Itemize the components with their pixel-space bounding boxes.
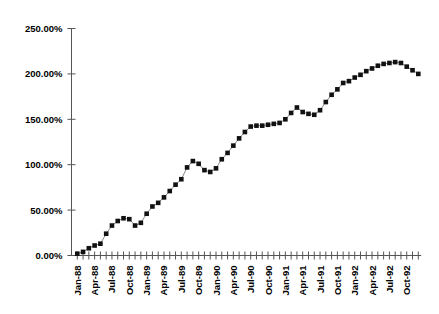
data-point [295, 105, 300, 110]
data-point [306, 112, 311, 117]
y-axis-labels: 0.00%50.00%100.00%150.00%200.00%250.00% [25, 23, 63, 261]
data-point [173, 182, 178, 187]
data-point [376, 63, 381, 68]
data-point [387, 61, 392, 66]
x-tick-label: Jul-88 [106, 266, 117, 293]
data-point [185, 165, 190, 170]
x-tick-label: Jul-92 [384, 266, 395, 293]
x-axis-labels: Jan-88Apr-88Jul-88Oct-88Jan-89Apr-89Jul-… [72, 265, 412, 296]
data-point [150, 204, 155, 209]
data-point [260, 123, 265, 128]
data-point [115, 219, 120, 224]
x-tick-label: Oct-91 [332, 265, 343, 295]
x-tick-label: Apr-89 [158, 266, 169, 296]
data-point [243, 130, 248, 135]
data-point [358, 73, 363, 78]
data-point [127, 217, 132, 222]
x-tick-label: Apr-91 [297, 265, 308, 296]
x-tick-label: Oct-89 [193, 266, 204, 296]
data-point [318, 108, 323, 113]
data-point [179, 177, 184, 182]
data-point [139, 221, 144, 226]
data-point [214, 166, 219, 171]
x-tick-label: Jan-92 [349, 266, 360, 296]
data-point [225, 151, 230, 156]
x-tick-label: Apr-92 [367, 266, 378, 296]
data-point [202, 168, 207, 173]
data-point [277, 121, 282, 126]
data-point [364, 69, 369, 74]
data-point [237, 136, 242, 141]
x-tick-label: Jan-89 [141, 266, 152, 296]
x-tick-label: Jan-91 [280, 265, 291, 296]
data-point [404, 64, 409, 69]
data-point [399, 61, 404, 66]
data-point [272, 122, 277, 127]
data-point [300, 110, 305, 115]
x-tick-label: Oct-90 [263, 266, 274, 296]
data-point [410, 68, 415, 73]
data-point [92, 243, 97, 248]
data-point [329, 92, 334, 97]
data-point [133, 223, 138, 228]
data-point [87, 246, 92, 251]
series-line [77, 62, 418, 254]
data-point [370, 66, 375, 71]
data-point [162, 195, 167, 200]
y-tick-label: 150.00% [25, 114, 63, 125]
data-point [283, 117, 288, 122]
data-point [393, 60, 398, 65]
x-tick-label: Apr-90 [228, 266, 239, 296]
data-point [208, 170, 213, 175]
x-tick-label: Apr-88 [89, 266, 100, 296]
data-point [144, 211, 149, 216]
data-point [219, 157, 224, 162]
data-point [121, 216, 126, 221]
data-point [231, 143, 236, 148]
x-tick-label: Jul-89 [176, 266, 187, 293]
y-tick-label: 0.00% [36, 250, 63, 261]
chart-container: 0.00%50.00%100.00%150.00%200.00%250.00% … [0, 0, 439, 314]
y-tick-label: 100.00% [25, 159, 63, 170]
series-markers [75, 60, 421, 256]
data-point [341, 81, 346, 86]
x-tick-label: Jul-91 [315, 265, 326, 293]
data-point [167, 189, 172, 194]
data-point [75, 251, 80, 256]
data-point [335, 87, 340, 92]
data-point [352, 75, 357, 80]
x-tick-label: Jul-90 [245, 266, 256, 293]
data-point [289, 111, 294, 116]
x-tick-label: Jan-90 [211, 266, 222, 296]
y-tick-label: 200.00% [25, 68, 63, 79]
data-point [81, 250, 86, 255]
data-point [191, 159, 196, 164]
data-point [347, 79, 352, 84]
data-point [381, 62, 386, 67]
data-point [248, 124, 253, 129]
x-tick-label: Oct-88 [124, 266, 135, 296]
chart-svg: 0.00%50.00%100.00%150.00%200.00%250.00% … [0, 0, 439, 314]
data-point [196, 161, 201, 166]
data-point [156, 201, 161, 206]
data-point [104, 231, 109, 236]
data-point [110, 223, 115, 228]
y-tick-label: 50.00% [30, 205, 63, 216]
data-point [312, 112, 317, 117]
data-point [416, 72, 421, 77]
data-point [254, 123, 259, 128]
y-tick-label: 250.00% [25, 23, 63, 34]
data-point [266, 122, 271, 127]
data-point [324, 100, 329, 105]
x-tick-label: Oct-92 [401, 266, 412, 296]
x-tick-label: Jan-88 [72, 266, 83, 296]
data-point [98, 241, 103, 246]
